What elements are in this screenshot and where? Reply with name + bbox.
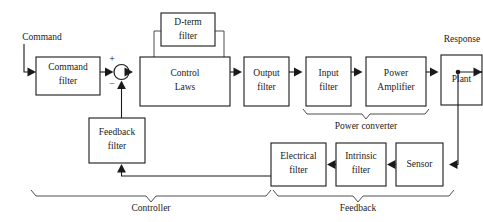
arrowhead-inputfilter-in [294,68,303,77]
command-signal-label: Command [22,32,62,42]
block-output-filter-line2: filter [257,82,276,92]
arrowhead-plant-in [430,68,439,77]
wire-command-in [24,44,29,72]
block-input-filter-line2: filter [319,82,338,92]
block-plant-label: Plant [452,74,472,84]
wire-dterm-out [215,31,224,57]
summing-junction-minus-sign: − [109,78,115,89]
arrowhead-poweramp-in [354,68,363,77]
block-power-amplifier-line2: Amplifier [377,82,415,92]
arrowhead-sum-in [105,68,114,77]
block-power-amplifier-line1: Power [384,68,409,78]
block-command-filter-line1: Command [48,62,88,72]
wire-dterm-in [154,31,161,57]
diagram-canvas: Command Command filter + − D-term filter… [0,0,483,222]
block-d-term-filter-line2: filter [179,31,198,41]
response-signal-label: Response [444,34,480,44]
block-diagram: Command Command filter + − D-term filter… [0,0,483,222]
summing-junction-plus-sign: + [109,53,115,64]
arrowhead-outputfilter-in [234,68,243,77]
block-output-filter-line1: Output [253,68,280,78]
block-input-filter-line1: Input [318,68,338,78]
block-d-term-filter-line1: D-term [174,17,202,27]
block-control-laws-line2: Laws [175,82,196,92]
block-control-laws-line1: Control [170,68,199,78]
arrowhead-command-in [28,68,37,77]
block-command-filter-line2: filter [59,76,78,86]
